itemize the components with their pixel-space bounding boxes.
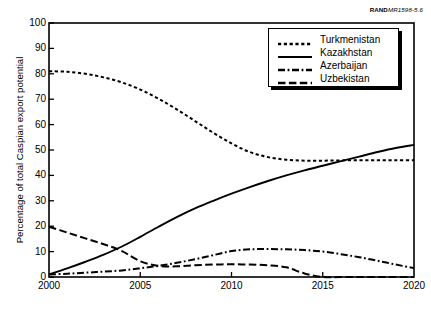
legend-line-sample-icon [277, 61, 313, 71]
figure-container: RANDMR1598-5.6 Percentage of total Caspi… [0, 0, 431, 310]
y-tick-label: 10 [20, 247, 46, 257]
y-tick-label: 100 [20, 18, 46, 28]
legend-entry-uzbekistan[interactable]: Uzbekistan [269, 72, 398, 85]
data-series-layer [49, 71, 414, 277]
legend-label: Turkmenistan [320, 35, 380, 45]
y-tick-label: 60 [20, 120, 46, 130]
legend-entry-turkmenistan[interactable]: Turkmenistan [269, 33, 398, 46]
legend-line-sample-icon [277, 35, 313, 45]
legend-label: Uzbekistan [320, 74, 369, 84]
x-tick-label: 2005 [120, 281, 160, 291]
legend-label: Azerbaijan [320, 61, 367, 71]
x-tick-label: 2000 [29, 281, 69, 291]
y-tick-label: 50 [20, 145, 46, 155]
y-tick-label: 70 [20, 94, 46, 104]
chart-legend: TurkmenistanKazakhstanAzerbaijanUzbekist… [268, 28, 399, 87]
legend-entry-azerbaijan[interactable]: Azerbaijan [269, 59, 398, 72]
y-tick-label: 80 [20, 69, 46, 79]
legend-entry-kazakhstan[interactable]: Kazakhstan [269, 46, 398, 59]
x-tick-label: 2020 [394, 281, 431, 291]
y-tick-label: 20 [20, 221, 46, 231]
legend-label: Kazakhstan [320, 48, 372, 58]
legend-line-sample-icon [277, 48, 313, 58]
x-tick-label: 2015 [303, 281, 343, 291]
series-line-azerbaijan [49, 249, 414, 274]
series-line-kazakhstan [49, 145, 414, 275]
legend-line-sample-icon [277, 74, 313, 84]
y-tick-label: 90 [20, 43, 46, 53]
y-tick-label: 40 [20, 170, 46, 180]
y-tick-label: 30 [20, 196, 46, 206]
x-tick-label: 2010 [212, 281, 252, 291]
